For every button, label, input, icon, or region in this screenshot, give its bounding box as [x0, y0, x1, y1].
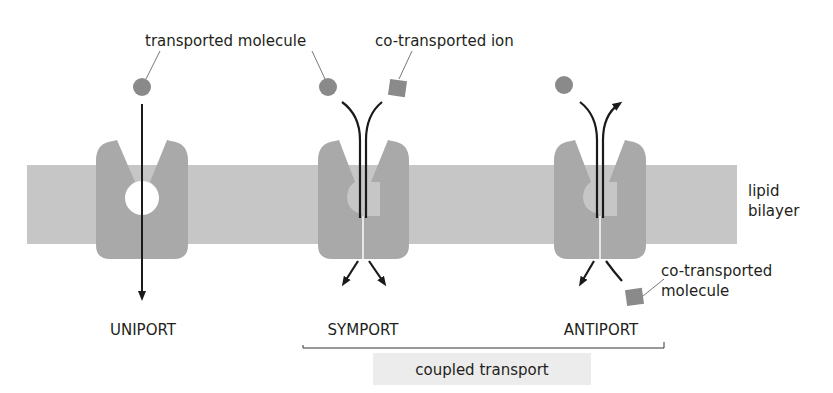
- symport-molecule-exit-arrow: [344, 261, 358, 283]
- antiport-inward-exit-arrow: [581, 261, 594, 283]
- leader-co-transported-ion: [399, 51, 412, 79]
- uniport-transported-molecule: [133, 78, 151, 96]
- symport-co-transported-ion: [388, 79, 407, 97]
- label-symport: SYMPORT: [328, 321, 400, 339]
- coupled-transport-bracket: [303, 342, 664, 348]
- label-coupled-transport: coupled transport: [415, 361, 549, 379]
- label-antiport: ANTIPORT: [564, 321, 639, 339]
- label-co-transported-molecule-line1: co-transported: [661, 262, 772, 280]
- symport-ion-exit-arrow: [369, 261, 384, 283]
- label-co-transported-molecule-line2: molecule: [661, 282, 729, 300]
- symport-transported-molecule: [319, 78, 337, 96]
- antiport-co-transported-molecule: [625, 288, 644, 306]
- label-co-transported-ion: co-transported ion: [375, 32, 514, 50]
- label-transported-molecule: transported molecule: [145, 32, 306, 50]
- label-lipid-bilayer-line1: lipid: [748, 182, 780, 200]
- label-uniport: UNIPORT: [110, 321, 177, 339]
- transport-diagram: transported molecule co-transported ion …: [0, 0, 833, 393]
- antiport-outward-entry-path: [606, 261, 622, 281]
- label-lipid-bilayer-line2: bilayer: [748, 202, 800, 220]
- antiport-transported-molecule: [555, 76, 573, 94]
- leader-transported-molecule-left: [146, 51, 160, 79]
- leader-transported-molecule-right: [312, 51, 325, 79]
